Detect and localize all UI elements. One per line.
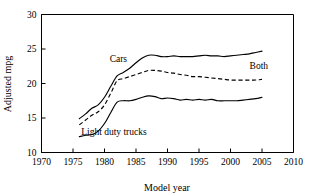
chart-figure: 197019751980198519901995200020052010 101…: [0, 0, 317, 196]
series-label-cars: Cars: [110, 54, 128, 64]
series-label-both: Both: [250, 61, 269, 71]
y-tick-label: 10: [27, 148, 37, 158]
x-tick-label: 2010: [284, 157, 303, 167]
x-tick-label: 1970: [32, 157, 51, 167]
x-tick-label: 2000: [221, 157, 240, 167]
x-tick-label: 1975: [64, 157, 83, 167]
y-tick-label: 15: [27, 113, 37, 123]
x-axis-tick-labels: 197019751980198519901995200020052010: [32, 157, 303, 167]
x-axis-title: Model year: [144, 182, 190, 193]
x-tick-label: 1995: [190, 157, 209, 167]
x-tick-label: 1980: [95, 157, 114, 167]
x-tick-label: 1985: [127, 157, 146, 167]
y-tick-label: 25: [27, 44, 37, 54]
y-tick-label: 20: [27, 79, 37, 89]
y-axis-title: Adjusted mpg: [2, 56, 13, 112]
x-tick-label: 2005: [253, 157, 272, 167]
x-tick-label: 1990: [158, 157, 177, 167]
series-label-light-duty-trucks: Light duty trucks: [81, 127, 147, 137]
y-tick-label: 30: [27, 10, 37, 20]
mpg-line-chart: 197019751980198519901995200020052010 101…: [0, 0, 317, 196]
